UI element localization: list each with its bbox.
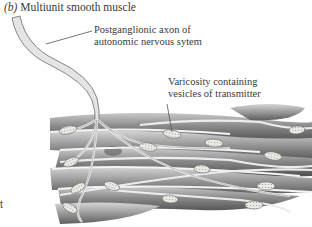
varicosity-label-line1: Varicosity containing <box>168 76 261 88</box>
axon-label: Postganglionic axon of autonomic nervous… <box>94 24 202 48</box>
varicosity-label: Varicosity containing vesicles of transm… <box>168 76 261 100</box>
axon-leader-line <box>46 31 92 44</box>
cropped-text-fragment: t <box>0 199 3 210</box>
axon-label-line2: autonomic nervous sytem <box>94 36 202 48</box>
axon-label-line1: Postganglionic axon of <box>94 24 202 36</box>
postganglionic-axon <box>12 16 99 122</box>
varicosity-label-line2: vesicles of transmitter <box>168 88 261 100</box>
